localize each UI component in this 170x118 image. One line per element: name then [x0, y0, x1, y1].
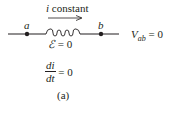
voltage-label: Vab = 0 — [131, 28, 163, 43]
emf-value: = 0 — [55, 38, 72, 50]
derivative-value: = 0 — [56, 66, 73, 78]
node-a-dot — [25, 32, 29, 36]
derivative-label: di dt = 0 — [45, 59, 73, 84]
derivative-denominator: dt — [45, 72, 56, 84]
current-label: i constant — [46, 2, 88, 14]
node-a-label: a — [24, 19, 30, 31]
voltage-sub: ab — [138, 34, 146, 43]
emf-label: ℰ = 0 — [48, 38, 72, 51]
voltage-var: V — [131, 28, 138, 40]
inductor-coil-icon — [46, 29, 80, 36]
derivative-fraction: di dt — [45, 59, 56, 84]
derivative-numerator: di — [45, 59, 56, 72]
current-arrow-icon — [48, 16, 82, 21]
current-text: constant — [49, 2, 88, 14]
node-b-label: b — [98, 19, 104, 31]
figure-caption: (a) — [57, 89, 69, 101]
emf-symbol: ℰ — [48, 38, 55, 50]
voltage-value: = 0 — [146, 28, 163, 40]
node-b-dot — [99, 32, 103, 36]
circuit-diagram — [0, 0, 170, 118]
